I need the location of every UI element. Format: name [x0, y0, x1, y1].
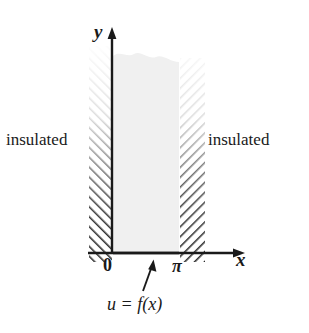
boundary-condition-label: u = f(x) [107, 295, 162, 313]
right-insulated-hatching [180, 58, 205, 262]
insulated-label-right: insulated [208, 131, 269, 148]
insulated-label-left: insulated [6, 131, 67, 148]
y-axis-label: y [94, 22, 102, 41]
diagram-canvas [0, 0, 309, 333]
strip-diagram-figure: insulated insulated y x 0 π u = f(x) [0, 0, 309, 333]
x-axis-label: x [236, 250, 246, 269]
boundary-condition-leader-arrow [143, 260, 156, 292]
origin-tick-label: 0 [103, 256, 112, 274]
pi-tick-label: π [172, 257, 182, 275]
left-insulated-hatching [89, 46, 112, 262]
strip-region [113, 40, 179, 253]
